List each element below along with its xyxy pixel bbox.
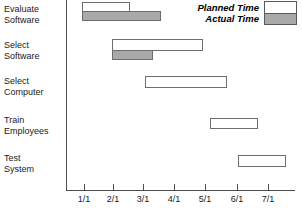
legend-label-planned-time: Planned Time (180, 2, 259, 13)
legend-swatch-actual-fill (265, 13, 296, 24)
x-axis-tick-label-5: 6/1 (225, 194, 249, 204)
task-label-train-employees: Train Employees (4, 115, 62, 136)
x-axis-tick-5 (237, 184, 238, 191)
x-axis-tick-label-6: 7/1 (256, 194, 280, 204)
x-axis-tick-6 (268, 184, 269, 191)
legend-label-actual-time: Actual Time (180, 13, 259, 24)
x-axis-tick-label-4: 5/1 (193, 194, 217, 204)
bar-actual-select-software (112, 50, 153, 60)
task-label-evaluate-software: Evaluate Software (4, 4, 62, 25)
gantt-chart: Evaluate Software Select Software Select… (0, 0, 302, 215)
x-axis-tick-label-3: 4/1 (162, 194, 186, 204)
x-axis-tick-3 (174, 184, 175, 191)
legend-swatch (264, 1, 297, 25)
task-label-select-computer: Select Computer (4, 76, 62, 97)
bar-planned-test-system (238, 155, 286, 167)
x-axis-tick-4 (205, 184, 206, 191)
bar-actual-evaluate-software (82, 11, 161, 21)
task-label-select-software: Select Software (4, 40, 62, 61)
task-label-test-system: Test System (4, 153, 62, 174)
x-axis-tick-1 (113, 184, 114, 191)
x-axis-tick-label-0: 1/1 (72, 194, 96, 204)
bar-planned-select-computer (145, 76, 227, 88)
x-axis-line (66, 190, 295, 191)
x-axis-tick-2 (143, 184, 144, 191)
bar-planned-train-employees (210, 118, 258, 129)
y-axis-line (66, 0, 67, 191)
x-axis-tick-label-1: 2/1 (101, 194, 125, 204)
x-axis-tick-label-2: 3/1 (131, 194, 155, 204)
x-axis-tick-0 (84, 184, 85, 191)
